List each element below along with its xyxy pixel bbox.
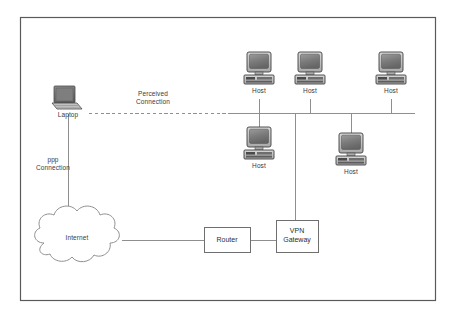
router-label: Router [204,236,250,245]
ppp-connection-label: ppp Connection [24,156,82,172]
host5-label: Host [327,168,375,176]
internet-cloud-label: Internet [53,234,101,242]
host3-icon[interactable] [376,52,406,84]
host1-icon[interactable] [244,52,274,84]
host5-icon[interactable] [336,133,366,165]
laptop-icon[interactable] [52,86,82,109]
host4-icon[interactable] [244,127,274,159]
vpn-gateway-label: VPN Gateway [276,227,318,244]
host2-label: Host [286,87,334,95]
laptop-label: Laptop [44,111,92,119]
host1-label: Host [235,87,283,95]
host2-icon[interactable] [295,52,325,84]
perceived-connection-label: Perceived Connection [124,90,182,106]
diagram-canvas: Laptop Host Host Host Host Host Internet… [0,0,456,317]
host4-label: Host [235,162,283,170]
host3-label: Host [367,87,415,95]
